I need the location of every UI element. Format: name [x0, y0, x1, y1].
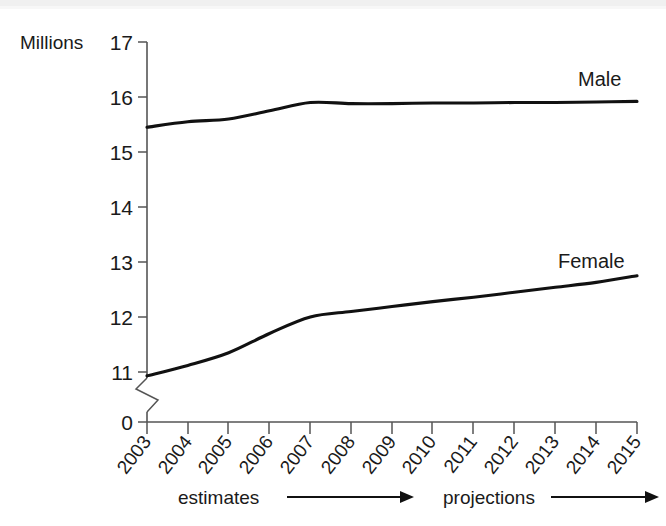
y-tick-label: 17 [110, 31, 133, 54]
y-axis-unit-label: Millions [20, 32, 83, 53]
x-tick-label: 2008 [317, 432, 360, 478]
x-tick-label: 2006 [235, 432, 278, 478]
x-tick-label: 2004 [154, 431, 197, 478]
x-axis-ticks [147, 422, 637, 434]
x-tick-label: 2005 [194, 432, 237, 478]
y-tick-label: 12 [110, 306, 133, 329]
y-tick-label: 16 [110, 86, 133, 109]
series-label-female: Female [558, 250, 625, 272]
y-tick-label: 11 [111, 361, 133, 384]
series-label-male: Male [578, 68, 621, 90]
x-axis-tick-labels: 2003 2004 2005 2006 2007 2008 2009 2010 … [113, 431, 646, 478]
series-line-male [147, 101, 637, 127]
estimates-label: estimates [178, 487, 259, 508]
y-tick-label: 13 [110, 251, 133, 274]
x-tick-label: 2010 [398, 432, 441, 478]
series-line-female [147, 276, 637, 376]
estimates-arrow-head [400, 491, 414, 503]
y-tick-label: 0 [121, 411, 133, 434]
x-tick-label: 2014 [562, 431, 605, 478]
line-chart: Millions 17 16 15 14 13 12 11 0 [0, 0, 666, 526]
chart-canvas: Millions 17 16 15 14 13 12 11 0 [0, 0, 666, 526]
x-tick-label: 2003 [113, 432, 156, 478]
y-tick-label: 14 [110, 196, 134, 219]
x-tick-label: 2012 [480, 432, 523, 478]
x-tick-label: 2011 [439, 432, 481, 477]
x-tick-label: 2009 [358, 432, 401, 478]
y-axis-ticks [138, 42, 147, 422]
x-tick-label: 2007 [276, 432, 319, 478]
y-axis-break-zigzag [136, 378, 158, 412]
x-tick-label: 2013 [521, 432, 564, 478]
projections-arrow-head [645, 491, 659, 503]
projections-label: projections [443, 487, 535, 508]
x-tick-label: 2015 [603, 432, 646, 478]
y-tick-label: 15 [110, 141, 133, 164]
